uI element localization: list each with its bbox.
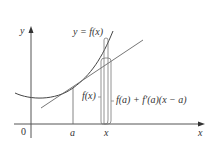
a-tick-label: a: [70, 128, 75, 138]
curve-f: [15, 31, 113, 98]
x-axis-label: x: [198, 128, 202, 138]
x-tick-label: x: [104, 128, 108, 138]
fx-label: f(x): [82, 91, 96, 101]
curve-label: y = f(x): [73, 27, 103, 37]
origin-label: 0: [21, 127, 26, 137]
tangent-value-label: f(a) + f′(a)(x − a): [116, 95, 187, 105]
y-axis-label: y: [20, 26, 24, 36]
fx-brace: [104, 38, 108, 124]
x-axis-arrow-icon: [198, 122, 205, 127]
tangent-value-brace: [101, 58, 111, 124]
y-axis-arrow-icon: [29, 26, 34, 33]
